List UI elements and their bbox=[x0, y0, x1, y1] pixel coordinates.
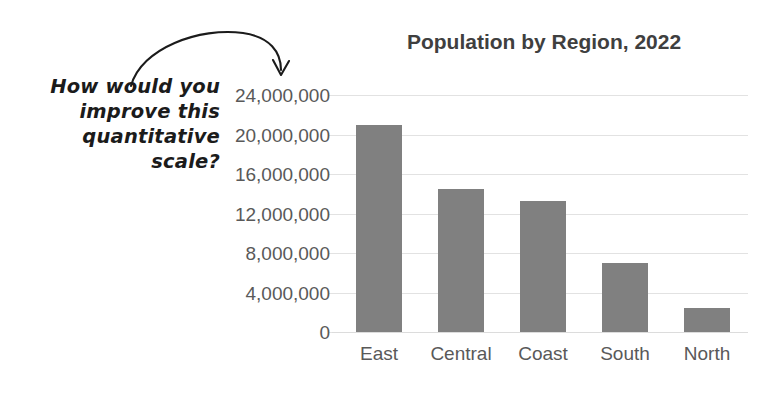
chart-screenshot: Population by Region, 2022 04,000,0008,0… bbox=[0, 0, 773, 396]
x-axis-tick-label: North bbox=[657, 343, 757, 365]
y-axis-tick-mark bbox=[329, 95, 338, 96]
chart-title: Population by Region, 2022 bbox=[338, 30, 750, 54]
y-axis-tick-label: 0 bbox=[190, 323, 330, 342]
y-axis-tick-label: 8,000,000 bbox=[190, 244, 330, 263]
bar-chart: Population by Region, 2022 04,000,0008,0… bbox=[0, 0, 773, 396]
bar bbox=[356, 125, 402, 332]
plot-area bbox=[338, 95, 748, 332]
bar bbox=[684, 308, 730, 332]
handwritten-annotation: How would you improve this quantitative … bbox=[8, 74, 220, 174]
y-axis-tick-label: 4,000,000 bbox=[190, 284, 330, 303]
x-axis-line bbox=[332, 332, 748, 333]
y-axis-tick-mark bbox=[329, 174, 338, 175]
annotation-line: improve this bbox=[8, 99, 220, 124]
bar bbox=[438, 189, 484, 332]
y-axis-tick-mark bbox=[329, 253, 338, 254]
bar bbox=[520, 201, 566, 332]
bar bbox=[602, 263, 648, 332]
y-axis-tick-mark bbox=[329, 293, 338, 294]
annotation-line: quantitative bbox=[8, 124, 220, 149]
bar-series bbox=[338, 95, 748, 332]
y-axis-tick-mark bbox=[329, 135, 338, 136]
annotation-line: How would you bbox=[8, 74, 220, 99]
y-axis-tick-mark bbox=[329, 214, 338, 215]
y-axis-tick-label: 12,000,000 bbox=[190, 205, 330, 224]
annotation-line: scale? bbox=[8, 149, 220, 174]
